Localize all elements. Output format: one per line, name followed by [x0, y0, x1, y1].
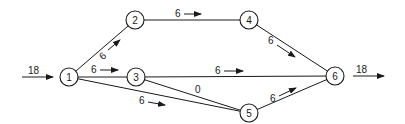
flow-label-5-6: 6 [270, 88, 296, 104]
edge-1-5 [69, 77, 249, 113]
node-label: 2 [132, 15, 138, 26]
source-inflow: 18 [22, 65, 53, 77]
flow-label-1-5: 6 [139, 95, 165, 106]
flow-label-2-4: 6 [175, 8, 201, 19]
node-label: 1 [66, 72, 72, 83]
node-label: 5 [246, 108, 252, 119]
node-4: 4 [240, 11, 258, 29]
flow-value: 6 [268, 35, 274, 46]
flow-value: 6 [175, 8, 181, 19]
node-5: 5 [240, 104, 258, 122]
node-2: 2 [126, 11, 144, 29]
edge-3-5 [136, 77, 249, 113]
flow-label-1-3: 6 [91, 64, 118, 75]
flow-arrow-icon [277, 45, 295, 57]
flow-arrow-icon [148, 102, 165, 105]
flow-arrow-icon [279, 88, 296, 96]
sink-outflow: 18 [353, 64, 384, 76]
flow-value: 6 [270, 93, 276, 104]
node-label: 4 [246, 15, 252, 26]
flow-label-3-6: 6 [215, 65, 243, 76]
flow-value: 6 [139, 95, 145, 106]
edge-1-2 [69, 20, 135, 77]
edge-4-6 [249, 20, 335, 76]
inflow-value: 18 [28, 65, 40, 76]
outflow-value: 18 [356, 64, 368, 75]
edge-5-6 [249, 76, 335, 113]
node-label: 6 [332, 71, 338, 82]
flow-label-3-5: 0 [195, 84, 201, 95]
node-6: 6 [326, 67, 344, 85]
flow-value: 6 [91, 64, 97, 75]
node-label: 3 [133, 72, 139, 83]
node-3: 3 [127, 68, 145, 86]
edges [69, 20, 335, 113]
flow-value: 6 [215, 65, 221, 76]
flow-network-diagram: 18 18 6 6 6 6 6 0 6 6 1 2 [0, 0, 405, 124]
edge-3-6 [136, 76, 335, 77]
flow-label-4-6: 6 [268, 35, 295, 57]
node-1: 1 [60, 68, 78, 86]
flow-value: 0 [195, 84, 201, 95]
flow-value: 6 [97, 49, 109, 61]
